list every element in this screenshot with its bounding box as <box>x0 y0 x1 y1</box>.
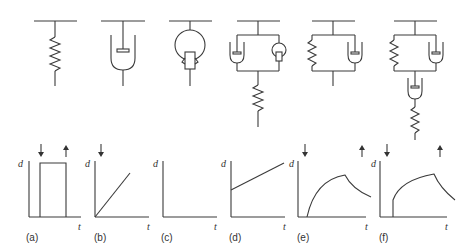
panel-label-e: (e) <box>297 232 309 243</box>
panel-label-d: (d) <box>229 232 241 243</box>
rheological-models-figure: d t (a) d t (b) d t (c) d t (d) <box>0 0 472 247</box>
panel-label-c: (c) <box>161 232 173 243</box>
model-d-combined <box>230 21 286 127</box>
svg-text:t: t <box>214 221 217 232</box>
svg-text:d: d <box>153 158 159 169</box>
graph-f: d t (f) <box>371 144 455 243</box>
graph-d: d t (d) <box>221 158 286 243</box>
graph-c: d t (c) <box>153 158 217 243</box>
svg-text:d: d <box>18 158 24 169</box>
svg-text:d: d <box>289 158 295 169</box>
svg-text:t: t <box>365 221 368 232</box>
panel-label-b: (b) <box>94 232 106 243</box>
model-b-dashpot <box>101 21 145 86</box>
panel-label-a: (a) <box>26 232 38 243</box>
graph-e: d t (e) <box>289 144 371 243</box>
model-e-kelvin <box>308 21 362 86</box>
model-f-burgers <box>390 21 443 140</box>
panel-label-f: (f) <box>379 232 388 243</box>
svg-text:d: d <box>371 158 377 169</box>
svg-text:t: t <box>445 221 448 232</box>
svg-text:d: d <box>221 158 227 169</box>
svg-text:t: t <box>78 221 81 232</box>
model-a-spring <box>34 21 77 86</box>
graph-b: d t (b) <box>85 144 150 243</box>
svg-text:t: t <box>283 221 286 232</box>
model-c-friction-element <box>169 21 212 86</box>
svg-text:t: t <box>147 221 150 232</box>
graph-a: d t (a) <box>18 144 81 243</box>
svg-text:d: d <box>85 158 91 169</box>
